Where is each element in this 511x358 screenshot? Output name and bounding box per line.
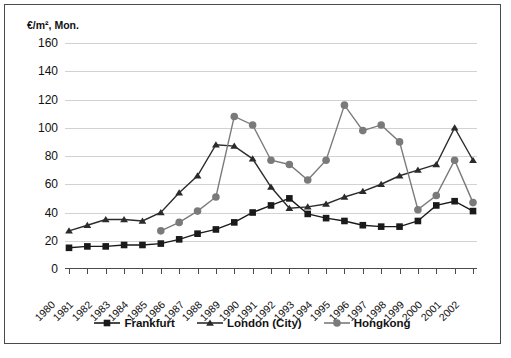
chart-root: €/m², Mon. 020406080100120140160 1980198… (0, 0, 511, 358)
y-axis-tick-label: 80 (18, 149, 58, 163)
data-point-marker (194, 172, 202, 178)
x-axis-tick-mark (87, 269, 88, 274)
data-point-marker (359, 127, 367, 135)
x-axis-tick-mark (418, 269, 419, 274)
x-axis-tick-mark (106, 269, 107, 274)
y-axis-tick-label: 140 (18, 64, 58, 78)
x-axis-tick-mark (381, 269, 382, 274)
data-point-marker (194, 207, 202, 215)
data-point-marker (469, 199, 477, 207)
data-point-marker (121, 242, 128, 249)
series-line (69, 128, 473, 231)
legend-label: Hongkong (354, 317, 411, 329)
data-point-marker (231, 219, 238, 226)
x-axis-tick-mark (216, 269, 217, 274)
x-axis-tick-mark (179, 269, 180, 274)
x-axis-tick-mark (198, 269, 199, 274)
y-axis-tick-label: 100 (18, 121, 58, 135)
data-point-marker (249, 209, 256, 216)
data-point-marker (194, 230, 201, 237)
data-point-marker (396, 138, 404, 146)
legend-item-hongkong[interactable]: Hongkong (324, 317, 411, 329)
data-point-marker (304, 176, 312, 184)
data-point-marker (230, 113, 238, 121)
data-point-marker (286, 161, 294, 169)
data-point-marker (396, 223, 403, 230)
data-point-marker (157, 227, 165, 235)
legend-marker-square-icon (94, 317, 120, 329)
data-point-marker (249, 121, 257, 129)
x-axis-tick-mark (308, 269, 309, 274)
y-axis-tick-label: 120 (18, 93, 58, 107)
data-point-marker (433, 202, 440, 209)
data-point-marker (432, 192, 440, 200)
y-axis-tick-label: 160 (18, 36, 58, 50)
data-point-marker (84, 243, 91, 250)
y-axis-tick-label: 0 (18, 262, 58, 276)
data-point-marker (322, 156, 330, 164)
data-point-marker (377, 181, 385, 187)
data-point-marker (378, 223, 385, 230)
data-point-marker (212, 193, 220, 201)
data-point-marker (175, 219, 183, 227)
data-point-marker (360, 222, 367, 229)
x-axis-tick-mark (344, 269, 345, 274)
x-axis-tick-mark (473, 269, 474, 274)
x-axis-tick-mark (69, 269, 70, 274)
chart-frame: €/m², Mon. 020406080100120140160 1980198… (4, 4, 501, 344)
series-frankfurt (66, 195, 477, 251)
plot-area: 020406080100120140160 198019811982198319… (65, 43, 477, 269)
data-point-marker (213, 226, 220, 233)
legend-item-london-city[interactable]: London (City) (197, 317, 302, 329)
x-axis-tick-mark (363, 269, 364, 274)
x-axis-tick-mark (142, 269, 143, 274)
data-point-marker (470, 208, 477, 215)
series-layer (65, 43, 477, 269)
chart-legend: FrankfurtLondon (City)Hongkong (5, 317, 500, 329)
data-point-marker (333, 319, 341, 327)
y-axis-tick-label: 60 (18, 177, 58, 191)
x-axis-tick-mark (436, 269, 437, 274)
y-axis-tick-label: 20 (18, 234, 58, 248)
data-point-marker (341, 101, 349, 109)
x-axis-tick-mark (124, 269, 125, 274)
data-point-marker (323, 215, 330, 222)
data-point-marker (176, 236, 183, 243)
data-point-marker (414, 206, 422, 214)
data-point-marker (304, 211, 311, 218)
series-hongkong (157, 101, 477, 234)
data-point-marker (432, 161, 440, 167)
legend-label: London (City) (227, 317, 302, 329)
data-point-marker (102, 243, 109, 250)
data-point-marker (341, 218, 348, 225)
data-point-marker (451, 156, 459, 164)
data-point-marker (451, 198, 458, 205)
data-point-marker (66, 245, 73, 252)
y-axis-tick-label: 40 (18, 206, 58, 220)
data-point-marker (286, 195, 293, 202)
x-axis-tick-mark (271, 269, 272, 274)
x-axis-tick-mark (234, 269, 235, 274)
data-point-marker (377, 121, 385, 129)
data-point-marker (267, 184, 275, 190)
data-point-marker (415, 218, 422, 225)
x-axis-tick-mark (326, 269, 327, 274)
x-axis-tick-mark (253, 269, 254, 274)
legend-marker-circle-icon (324, 317, 350, 329)
data-point-marker (158, 240, 165, 247)
x-axis-tick-mark (455, 269, 456, 274)
data-point-marker (267, 156, 275, 164)
y-axis-unit-label: €/m², Mon. (27, 19, 79, 31)
data-point-marker (469, 157, 477, 163)
data-point-marker (139, 242, 146, 249)
x-axis-tick-mark (289, 269, 290, 274)
series-london-city (65, 124, 477, 233)
data-point-marker (104, 320, 111, 327)
x-axis-tick-mark (400, 269, 401, 274)
legend-item-frankfurt[interactable]: Frankfurt (94, 317, 174, 329)
data-point-marker (268, 202, 275, 209)
legend-marker-triangle-icon (197, 317, 223, 329)
y-axis-unit-text: €/m², Mon. (27, 19, 79, 31)
legend-label: Frankfurt (124, 317, 174, 329)
data-point-marker (451, 124, 459, 130)
